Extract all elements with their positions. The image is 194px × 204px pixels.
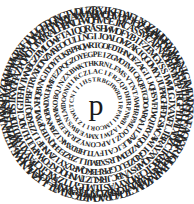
ring-letter: C xyxy=(98,68,104,76)
letter-rings-canvas: TRBGHWRDIRPMIIMCORIIZYWUTCNIIIHSLACIFRZQ… xyxy=(0,0,194,204)
ring-letter: M xyxy=(5,107,15,116)
ring-letter: Z xyxy=(93,13,99,22)
rings-group: TRBGHWRDIRPMIIMCORIIZYWUTCNIIIHSLACIFRZQ… xyxy=(0,3,194,204)
ring-letter: I xyxy=(99,133,103,140)
letter-ring: TRBGHWRDIRPMIIMCORIIZYWUTCNIIIHS xyxy=(67,75,124,132)
letter-ring-figure: TRBGHWRDIRPMIIMCORIIZYWUTCNIIIHSLACIFRZQ… xyxy=(0,0,194,204)
